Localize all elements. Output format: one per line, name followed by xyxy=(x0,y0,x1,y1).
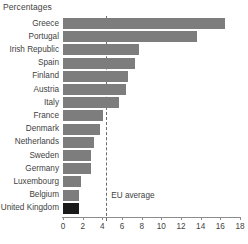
chart-title: Percentages xyxy=(3,2,52,12)
x-tick xyxy=(122,217,123,220)
category-label-belgium: Belgium xyxy=(29,191,59,199)
x-tick xyxy=(161,217,162,220)
bar-row: Denmark xyxy=(63,124,240,135)
bar-row: United Kingdom xyxy=(63,203,240,214)
bar-italy xyxy=(63,97,119,108)
category-label-germany: Germany xyxy=(25,165,59,173)
bar-belgium xyxy=(63,190,79,201)
category-label-spain: Spain xyxy=(38,59,59,67)
category-label-united-kingdom: United Kingdom xyxy=(1,204,59,212)
category-label-finland: Finland xyxy=(32,72,59,80)
bar-denmark xyxy=(63,124,100,135)
bar-row: Irish Republic xyxy=(63,44,240,55)
x-tick xyxy=(102,217,103,220)
category-label-luxembourg: Luxembourg xyxy=(13,178,59,186)
bar-netherlands xyxy=(63,137,94,148)
bar-row: Belgium xyxy=(63,190,240,201)
bar-germany xyxy=(63,163,91,174)
x-tick xyxy=(220,217,221,220)
category-label-sweden: Sweden xyxy=(29,151,59,159)
x-tick-label: 16 xyxy=(216,222,225,231)
bar-united-kingdom xyxy=(63,203,79,214)
x-tick xyxy=(142,217,143,220)
bar-row: Finland xyxy=(63,71,240,82)
percentages-bar-chart: Percentages EU average GreecePortugalIri… xyxy=(0,0,248,244)
bar-portugal xyxy=(63,31,197,42)
category-label-austria: Austria xyxy=(34,85,59,93)
x-tick-label: 0 xyxy=(61,222,66,231)
bar-row: Austria xyxy=(63,84,240,95)
x-tick xyxy=(181,217,182,220)
category-label-netherlands: Netherlands xyxy=(15,138,59,146)
x-tick xyxy=(201,217,202,220)
bar-row: Luxembourg xyxy=(63,176,240,187)
bar-row: Sweden xyxy=(63,150,240,161)
bar-row: Portugal xyxy=(63,31,240,42)
bar-row: Spain xyxy=(63,58,240,69)
bar-greece xyxy=(63,18,225,29)
bar-row: France xyxy=(63,110,240,121)
x-tick-label: 6 xyxy=(120,222,125,231)
category-label-denmark: Denmark xyxy=(26,125,59,133)
x-tick-label: 2 xyxy=(80,222,85,231)
bar-sweden xyxy=(63,150,91,161)
category-label-portugal: Portugal xyxy=(29,33,60,41)
bar-row: Netherlands xyxy=(63,137,240,148)
bar-spain xyxy=(63,58,135,69)
x-tick-label: 12 xyxy=(176,222,185,231)
category-label-irish-republic: Irish Republic xyxy=(9,46,59,54)
category-label-italy: Italy xyxy=(44,99,59,107)
x-tick xyxy=(83,217,84,220)
bar-finland xyxy=(63,71,128,82)
bar-row: Italy xyxy=(63,97,240,108)
x-axis: 024681012141618 xyxy=(62,217,241,218)
bar-france xyxy=(63,110,103,121)
x-tick xyxy=(240,217,241,220)
bar-irish-republic xyxy=(63,44,139,55)
bar-austria xyxy=(63,84,126,95)
x-tick xyxy=(63,217,64,220)
bar-row: Germany xyxy=(63,163,240,174)
x-tick-label: 4 xyxy=(100,222,105,231)
x-tick-label: 10 xyxy=(157,222,166,231)
x-tick-label: 18 xyxy=(235,222,244,231)
bar-row: Greece xyxy=(63,18,240,29)
x-tick-label: 8 xyxy=(139,222,144,231)
x-tick-label: 14 xyxy=(196,222,205,231)
plot-area: EU average GreecePortugalIrish RepublicS… xyxy=(63,17,240,217)
category-label-greece: Greece xyxy=(32,19,59,27)
bar-luxembourg xyxy=(63,176,81,187)
category-label-france: France xyxy=(34,112,59,120)
